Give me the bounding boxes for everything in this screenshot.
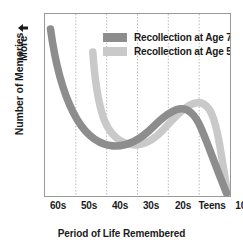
up-arrow-icon: [18, 23, 28, 33]
x-tick-label-50s: 50s: [81, 200, 97, 211]
x-tick-label-30s: 30s: [143, 200, 159, 211]
plot-area: Recollection at Age 70 Recollection at A…: [44, 13, 231, 197]
y-axis-more-group: More: [16, 14, 30, 70]
x-tick-label-20s: 20s: [175, 200, 191, 211]
x-tick-label-40s: 40s: [112, 200, 128, 211]
chart-container: Number of Memories More: [0, 0, 243, 249]
y-axis-more-label: More: [17, 36, 29, 61]
legend-label-recollection-age-70: Recollection at Age 70: [134, 32, 231, 43]
legend-item-recollection-age-50: Recollection at Age 50: [103, 46, 231, 57]
x-axis-tick-labels: 60s 50s 40s 30s 20s Teens 10–0: [44, 200, 231, 214]
x-tick-label-10-0: 10–0: [235, 200, 243, 211]
legend-swatch-dark-icon: [103, 33, 127, 42]
x-tick-label-teens: Teens: [198, 200, 225, 211]
x-axis-title: Period of Life Remembered: [0, 228, 243, 239]
chart-legend: Recollection at Age 70 Recollection at A…: [103, 32, 231, 57]
x-tick-label-60s: 60s: [50, 200, 66, 211]
legend-item-recollection-age-70: Recollection at Age 70: [103, 32, 231, 43]
legend-swatch-light-icon: [103, 47, 127, 56]
legend-label-recollection-age-50: Recollection at Age 50: [134, 46, 231, 57]
